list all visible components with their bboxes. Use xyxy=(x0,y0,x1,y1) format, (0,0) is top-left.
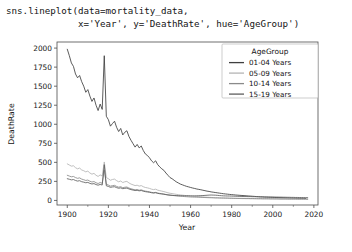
legend-label: 15-19 Years xyxy=(249,90,291,99)
chart-container: 025050075010001250150017502000 190019201… xyxy=(0,34,352,252)
lineplot-figure: 025050075010001250150017502000 190019201… xyxy=(0,34,352,252)
y-tick-label: 2000 xyxy=(33,44,52,53)
code-line-1: sns.lineplot(data=mortality_data, xyxy=(6,5,189,16)
legend-title: AgeGroup xyxy=(252,47,289,56)
y-tick-label: 1500 xyxy=(33,82,52,91)
y-tick-label: 750 xyxy=(38,139,52,148)
x-tick-label: 1960 xyxy=(181,210,200,219)
y-tick-label: 250 xyxy=(38,177,52,186)
legend-label: 05-09 Years xyxy=(249,69,291,78)
y-tick-label: 1000 xyxy=(33,120,52,129)
legend-label: 01-04 Years xyxy=(249,58,291,67)
x-tick-label: 1980 xyxy=(222,210,241,219)
x-tick-label: 2020 xyxy=(304,210,323,219)
x-axis-label: Year xyxy=(178,223,196,232)
y-axis-label: DeathRate xyxy=(7,103,16,145)
x-tick-label: 2000 xyxy=(263,210,282,219)
y-tick-label: 0 xyxy=(47,196,52,205)
code-line-2: x='Year', y='DeathRate', hue='AgeGroup') xyxy=(6,18,299,29)
y-axis-ticks: 025050075010001250150017502000 xyxy=(33,44,57,205)
code-snippet: sns.lineplot(data=mortality_data, x='Yea… xyxy=(6,4,352,30)
y-tick-label: 500 xyxy=(38,158,52,167)
x-tick-label: 1920 xyxy=(99,210,118,219)
legend[interactable]: AgeGroup01-04 Years05-09 Years10-14 Year… xyxy=(222,44,318,99)
y-tick-label: 1750 xyxy=(33,63,52,72)
x-tick-label: 1900 xyxy=(58,210,77,219)
x-tick-label: 1940 xyxy=(140,210,159,219)
y-tick-label: 1250 xyxy=(33,101,52,110)
x-axis-ticks: 1900192019401960198020002020 xyxy=(58,205,324,219)
legend-label: 10-14 Years xyxy=(249,79,291,88)
